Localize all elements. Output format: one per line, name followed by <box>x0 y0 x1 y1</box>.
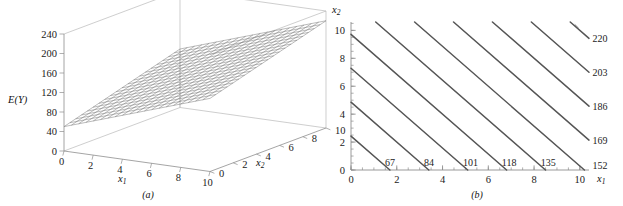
figure-container: 0408012016020024002468100246810 E(Y) x1 … <box>0 0 623 206</box>
surface-plot-svg: 0408012016020024002468100246810 E(Y) x1 … <box>0 0 311 206</box>
contour-line <box>492 22 589 106</box>
x1-tick-label: 2 <box>394 174 399 185</box>
contour-label: 169 <box>593 135 608 146</box>
contour-lines <box>351 22 589 170</box>
panel-a-surface-plot: 0408012016020024002468100246810 E(Y) x1 … <box>0 0 311 206</box>
contour-line <box>351 136 390 170</box>
x1-tick-label: 2 <box>88 160 93 171</box>
x2-tick-label: 6 <box>289 142 294 153</box>
panel-b-caption: (b) <box>471 189 483 201</box>
contour-line <box>570 22 589 38</box>
x1-tick-label: 10 <box>202 177 213 188</box>
x1-tick-label: 8 <box>176 172 181 183</box>
z-tick-label: 240 <box>41 29 57 40</box>
axis-ticks <box>60 34 331 176</box>
z-tick-label: 200 <box>41 48 57 59</box>
x2-axis-label: x2 <box>255 157 265 170</box>
x2-tick-label: 4 <box>340 109 346 120</box>
z-tick-label: 160 <box>41 68 57 79</box>
contour-label: 203 <box>593 67 608 78</box>
contour-axis-lines <box>351 22 589 170</box>
x2-tick-label: 0 <box>219 168 224 179</box>
x1-tick-label: 8 <box>531 174 536 185</box>
x2-tick-label: 4 <box>265 151 271 162</box>
contour-line <box>415 22 585 170</box>
axis-lines <box>64 34 326 172</box>
axis-tick-labels: 0408012016020024002468100246810 <box>41 29 345 188</box>
axis-box-frame <box>64 0 326 151</box>
contour-label: 152 <box>593 160 608 171</box>
contour-label: 118 <box>502 157 517 168</box>
contour-label: 84 <box>424 157 434 168</box>
x1-tick-label: 6 <box>486 174 491 185</box>
x2-tick-label: 2 <box>242 159 247 170</box>
x1-axis-label: x1 <box>117 173 126 186</box>
x1-tick-label: 0 <box>59 156 64 167</box>
x2-axis-label: x2 <box>331 4 341 17</box>
x1-tick-label: 4 <box>440 174 446 185</box>
x1-tick-label: 6 <box>146 168 151 179</box>
x1-tick-label: 0 <box>348 174 353 185</box>
x1-axis-label: x1 <box>596 173 605 186</box>
contour-label: 220 <box>593 33 608 44</box>
x2-tick-label: 10 <box>335 25 346 36</box>
contour-label: 101 <box>463 157 478 168</box>
z-tick-label: 40 <box>47 126 58 137</box>
surface-wireframe-mesh <box>64 21 326 127</box>
contour-label: 135 <box>541 157 556 168</box>
z-axis-label-EY: E(Y) <box>7 94 28 106</box>
x2-tick-label: 8 <box>340 53 345 64</box>
x1-tick-label: 10 <box>575 174 586 185</box>
x2-tick-label: 0 <box>340 165 345 176</box>
z-tick-label: 0 <box>52 146 57 157</box>
x2-tick-label: 6 <box>340 81 345 92</box>
contour-plot-svg: 02468100246810 6784101118135152169186203… <box>311 0 623 206</box>
contour-line <box>351 34 507 170</box>
panel-b-contour-plot: 02468100246810 6784101118135152169186203… <box>311 0 623 206</box>
z-tick-label: 80 <box>47 107 58 118</box>
contour-label: 186 <box>593 101 608 112</box>
panel-a-caption: (a) <box>142 189 154 201</box>
contour-line <box>454 22 589 140</box>
contour-axis-ticks <box>351 23 580 170</box>
contour-line <box>531 22 589 72</box>
contour-line <box>376 22 546 170</box>
z-tick-label: 120 <box>41 87 57 98</box>
contour-level-labels: 6784101118135152169186203220 <box>385 25 607 171</box>
contour-label: 67 <box>385 157 395 168</box>
x2-tick-label: 2 <box>340 137 345 148</box>
contour-line <box>351 68 468 170</box>
